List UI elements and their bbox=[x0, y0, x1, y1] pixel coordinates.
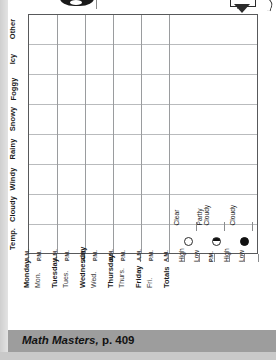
wednesday-abbr: Wed. bbox=[90, 232, 103, 288]
grid-hline bbox=[29, 164, 257, 165]
legend-partly-label-2: Cloudy bbox=[203, 181, 210, 225]
caption-bar: Math Masters, p. 409 bbox=[8, 330, 276, 352]
friday-abbr: Fri. bbox=[146, 232, 159, 288]
thursday-abbr: Thurs. bbox=[118, 232, 131, 288]
ink-blob-highlight bbox=[70, 0, 82, 5]
totals-tick bbox=[199, 254, 200, 262]
grid-hline bbox=[29, 194, 257, 195]
down-arrow-icon bbox=[234, 4, 250, 13]
row-label-foggy: Foggy bbox=[0, 74, 26, 104]
text-box-outline bbox=[96, 0, 238, 9]
chart-grid bbox=[28, 14, 258, 254]
page-top-cropped-artwork bbox=[8, 0, 276, 13]
row-label-other: Other bbox=[0, 14, 26, 44]
totals-tick bbox=[244, 254, 245, 262]
grid-vline bbox=[57, 15, 58, 253]
bottom-backdrop bbox=[0, 352, 276, 360]
grid-vline bbox=[169, 15, 170, 253]
totals-tick bbox=[258, 254, 259, 262]
row-label-rainy: Rainy bbox=[0, 134, 26, 164]
totals-tick bbox=[184, 254, 185, 262]
monday-abbr: Mon. bbox=[34, 232, 47, 288]
weather-chart bbox=[28, 14, 258, 254]
totals-am-label: A.M. bbox=[163, 224, 175, 262]
row-label-snowy: Snowy bbox=[0, 104, 26, 134]
grid-vline bbox=[141, 15, 142, 253]
grid-hline bbox=[29, 74, 257, 75]
legend-tick bbox=[252, 222, 253, 231]
caption-page: p. 409 bbox=[99, 334, 135, 346]
column-label-totals: Totals A.M. High Low P.M. High Low bbox=[168, 254, 258, 326]
grid-vline bbox=[113, 15, 114, 253]
tuesday-abbr: Tues. bbox=[62, 232, 75, 288]
legend-clear-label: Clear bbox=[173, 181, 180, 225]
legend-cloudy-label: Cloudy bbox=[229, 181, 236, 225]
grid-vline bbox=[85, 15, 86, 253]
screenshot-root: Other Icy Foggy Snowy Rainy Windy Cloudy… bbox=[0, 0, 276, 360]
page-bottom-margin bbox=[8, 320, 276, 330]
swoosh-icon bbox=[252, 0, 274, 12]
grid-hline bbox=[29, 134, 257, 135]
row-label-cloudy: Cloudy bbox=[0, 194, 26, 224]
caption-text: Math Masters, p. 409 bbox=[22, 334, 135, 346]
grid-hline bbox=[29, 104, 257, 105]
grid-hline bbox=[29, 44, 257, 45]
row-label-icy: Icy bbox=[0, 44, 26, 74]
totals-tick bbox=[214, 254, 215, 262]
totals-tick bbox=[229, 254, 230, 262]
row-label-windy: Windy bbox=[0, 164, 26, 194]
caption-source: Math Masters, bbox=[22, 334, 99, 346]
